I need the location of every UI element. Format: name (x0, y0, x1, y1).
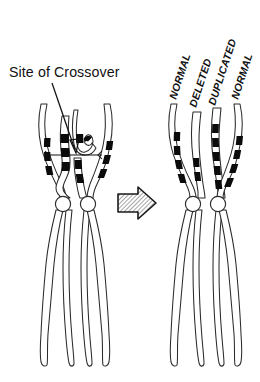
centromere-a (55, 196, 70, 211)
bands-chromatid-a2 (61, 134, 70, 171)
diagram-canvas: Site of Crossover (0, 0, 260, 382)
centromere-b (80, 196, 95, 211)
crossover-caption: Site of Crossover (9, 64, 120, 80)
centromere-d (210, 196, 225, 211)
centromere-c (185, 196, 200, 211)
chromosome-crossover-figure: Site of Crossover (0, 0, 260, 382)
